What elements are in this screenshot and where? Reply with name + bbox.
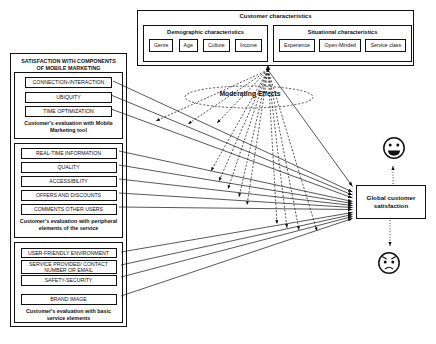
item-connection-interaction: CONNECTION-INTERACTION xyxy=(25,77,112,88)
item-time-optimization: TIME OPTIMIZATION xyxy=(25,106,112,117)
customer-characteristics-title: Customer characteristics xyxy=(138,13,413,19)
angry-face-icon xyxy=(379,253,399,273)
happy-face-icon xyxy=(384,138,404,158)
edge-safety-security xyxy=(121,217,353,278)
moderating-arrow-5 xyxy=(219,70,268,181)
edge-quality xyxy=(119,165,353,204)
peripheral-elements-group: REAL-TIME INFORMATION QUALITY ACCESSIBIL… xyxy=(14,143,123,238)
basic-service-elements-group: USER-FRIENDLY ENVIRONMENT SERVICE PROVID… xyxy=(14,242,123,323)
edge-connection-interaction xyxy=(113,81,353,192)
mobile-marketing-tool-group: CONNECTION-INTERACTION UBIQUITY TIME OPT… xyxy=(14,72,123,139)
peripheral-elements-caption: Customer's evaluation with peripheral el… xyxy=(18,218,120,232)
research-model-diagram: Customer characteristics Demographic cha… xyxy=(0,0,436,344)
edge-service-provided-contact xyxy=(121,215,353,266)
edge-brand-image xyxy=(121,219,353,297)
direct-effect-lines xyxy=(111,70,353,296)
item-real-time-information: REAL-TIME INFORMATION xyxy=(21,148,117,159)
global-customer-satisfaction-box: Global customer satisfaction xyxy=(356,185,426,219)
item-comments-other-users: COMMENTS OTHER USERS xyxy=(21,204,117,215)
demographic-characteristics-box: Demographic characteristics Genre Age Cu… xyxy=(143,25,268,62)
item-culture: Culture xyxy=(203,39,230,52)
situational-items: Experience Open-Minded Service class xyxy=(274,39,411,52)
item-service-class: Service class xyxy=(365,39,406,52)
item-brand-image: BRAND IMAGE xyxy=(21,294,117,305)
item-age: Age xyxy=(179,39,198,52)
item-quality: QUALITY xyxy=(21,162,117,173)
edge-time-optimization xyxy=(111,109,353,198)
edge-accessibility xyxy=(119,179,353,206)
global-customer-satisfaction-label: Global customer satisfaction xyxy=(361,194,421,211)
edge-characteristics-to-outcome xyxy=(268,70,353,187)
item-offers-and-discounts: OFFERS AND DISCOUNTS xyxy=(21,190,117,201)
item-genre: Genre xyxy=(149,39,173,52)
demographic-items: Genre Age Culture Income xyxy=(144,39,267,52)
basic-service-elements-caption: Customer's evaluation with basic service… xyxy=(18,308,120,322)
demographic-characteristics-title: Demographic characteristics xyxy=(144,29,267,35)
edge-ubiquity xyxy=(111,95,353,195)
item-income: Income xyxy=(235,39,262,52)
moderating-arrow-4 xyxy=(211,70,268,171)
item-safety-security: SAFETY-SECURITY xyxy=(21,275,117,286)
situational-characteristics-title: Situational characteristics xyxy=(274,29,411,35)
satisfaction-components-panel: SATISFACTION WITH COMPONENTS OF MOBILE M… xyxy=(10,53,127,327)
satisfaction-panel-title: SATISFACTION WITH COMPONENTS OF MOBILE M… xyxy=(17,58,120,72)
item-accessibility: ACCESSIBILITY xyxy=(21,176,117,187)
item-user-friendly-environment: USER-FRIENDLY ENVIRONMENT xyxy=(21,248,117,258)
item-ubiquity: UBIQUITY xyxy=(25,92,112,103)
item-open-minded: Open-Minded xyxy=(319,39,360,52)
edge-user-friendly-environment xyxy=(121,213,353,253)
edge-offers-and-discounts xyxy=(119,193,353,208)
mobile-marketing-tool-caption: Customer's evaluation with Mobile Market… xyxy=(18,120,120,134)
edge-real-time-information xyxy=(119,151,353,202)
item-service-provided-contact: SERVICE PROVIDED/ CONTACT NUMBER OR EMAI… xyxy=(21,260,117,274)
moderating-arrow-6 xyxy=(228,70,268,189)
edge-comments-other-users xyxy=(119,207,353,210)
item-experience: Experience xyxy=(279,39,315,52)
moderating-effects-label: Moderating Effects xyxy=(203,90,297,97)
situational-characteristics-box: Situational characteristics Experience O… xyxy=(273,25,412,62)
customer-characteristics-box: Customer characteristics Demographic cha… xyxy=(137,10,414,66)
moderating-arrow-2 xyxy=(188,70,268,124)
